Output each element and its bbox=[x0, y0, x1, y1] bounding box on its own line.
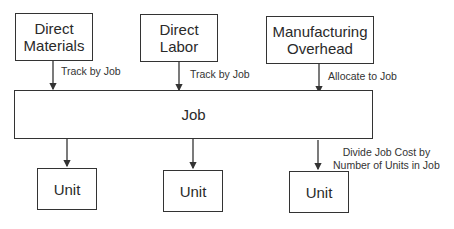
edge-label-track-labor: Track by Job bbox=[190, 68, 250, 81]
direct-materials-box: DirectMaterials bbox=[15, 13, 93, 61]
job-box: Job bbox=[14, 90, 373, 139]
manufacturing-overhead-box: ManufacturingOverhead bbox=[266, 16, 374, 64]
direct-labor-box: DirectLabor bbox=[140, 14, 218, 62]
unit-label-3: Unit bbox=[306, 184, 333, 201]
unit-box-1: Unit bbox=[37, 168, 97, 210]
job-label: Job bbox=[181, 106, 205, 123]
divide-cost-line2: Number of Units in Job bbox=[333, 159, 440, 172]
edge-label-allocate-overhead: Allocate to Job bbox=[328, 70, 397, 83]
unit-label-1: Unit bbox=[54, 181, 81, 198]
direct-materials-label-line2: Materials bbox=[24, 37, 85, 54]
direct-labor-label-line1: Direct bbox=[159, 21, 198, 38]
manufacturing-overhead-label-line2: Overhead bbox=[272, 40, 367, 57]
direct-labor-label-line2: Labor bbox=[159, 38, 198, 55]
edge-label-divide-cost: Divide Job Cost by Number of Units in Jo… bbox=[333, 146, 440, 172]
direct-materials-label-line1: Direct bbox=[24, 20, 85, 37]
unit-box-3: Unit bbox=[289, 171, 349, 213]
unit-label-2: Unit bbox=[180, 183, 207, 200]
divide-cost-line1: Divide Job Cost by bbox=[333, 146, 440, 159]
edge-label-track-materials: Track by Job bbox=[61, 65, 121, 78]
unit-box-2: Unit bbox=[163, 170, 223, 212]
manufacturing-overhead-label-line1: Manufacturing bbox=[272, 23, 367, 40]
